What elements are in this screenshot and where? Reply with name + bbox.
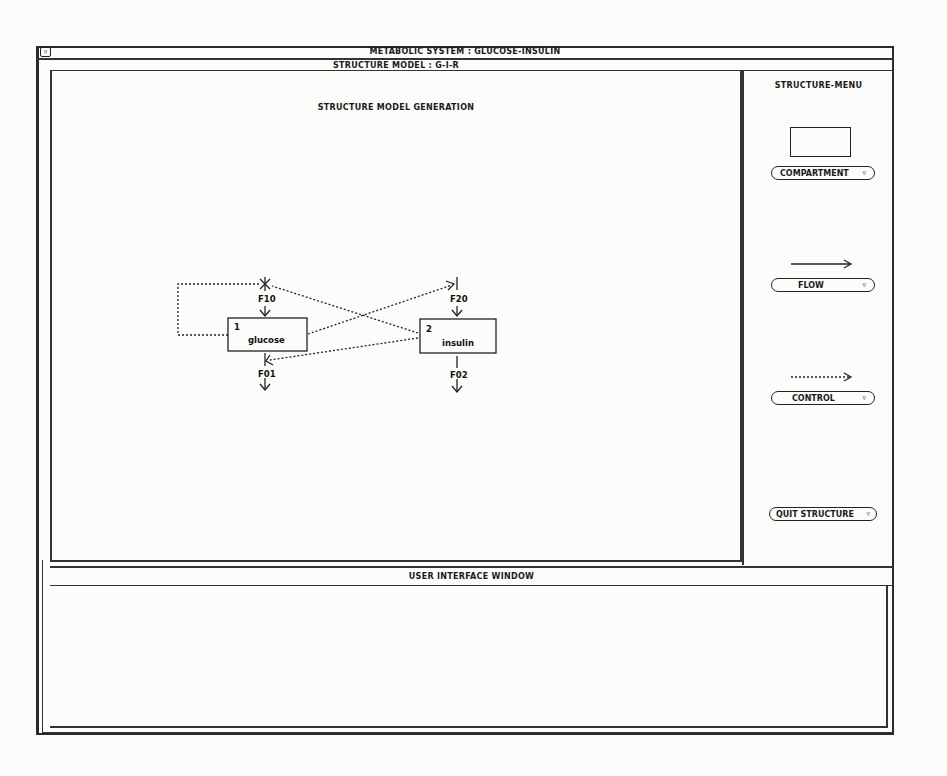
triangle-down-icon: ▿	[866, 509, 870, 520]
triangle-down-icon: ▿	[862, 168, 866, 179]
user-interface-header: USER INTERFACE WINDOW	[50, 566, 893, 586]
window-title: METABOLIC SYSTEM : GLUCOSE-INSULIN	[36, 47, 894, 56]
title-bar: ▿ METABOLIC SYSTEM : GLUCOSE-INSULIN	[36, 46, 894, 60]
triangle-down-icon: ▿	[862, 280, 866, 291]
triangle-down-icon: ▿	[862, 393, 866, 404]
structure-model-header: STRUCTURE MODEL : G-I-R	[50, 60, 742, 71]
svg-text:glucose: glucose	[248, 335, 285, 345]
quit-structure-button[interactable]: QUIT STRUCTURE ▿	[769, 507, 877, 521]
structure-diagram: 1 glucose 2 insulin F10 F01 F20 F02	[52, 71, 744, 562]
svg-text:F01: F01	[258, 369, 276, 379]
svg-text:F10: F10	[258, 294, 276, 304]
svg-text:F20: F20	[450, 294, 468, 304]
structure-menu-panel: STRUCTURE-MENU COMPARTMENT ▿ FLOW ▿ CONT…	[742, 70, 893, 565]
svg-text:F02: F02	[450, 370, 468, 380]
flow-button[interactable]: FLOW ▿	[771, 278, 875, 292]
svg-text:1: 1	[234, 322, 240, 332]
svg-text:2: 2	[426, 324, 432, 334]
user-interface-output[interactable]	[50, 586, 888, 728]
dotted-arrow-icon	[789, 371, 854, 383]
structure-canvas[interactable]: STRUCTURE MODEL GENERATION	[50, 71, 742, 562]
rectangle-icon	[790, 127, 851, 157]
svg-text:insulin: insulin	[442, 338, 474, 348]
control-button[interactable]: CONTROL ▿	[771, 391, 875, 405]
solid-arrow-icon	[789, 258, 854, 270]
compartment-button[interactable]: COMPARTMENT ▿	[771, 166, 875, 180]
menu-title: STRUCTURE-MENU	[744, 81, 893, 90]
